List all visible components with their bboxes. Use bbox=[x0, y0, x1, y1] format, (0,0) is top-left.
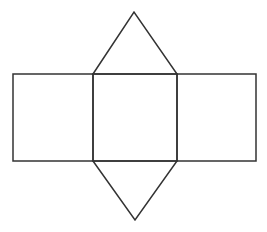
left-rectangle bbox=[13, 74, 93, 161]
prism-net-diagram bbox=[0, 0, 267, 232]
bottom-triangle bbox=[93, 161, 177, 220]
right-rectangle bbox=[177, 74, 256, 161]
top-triangle bbox=[93, 12, 177, 74]
center-rectangle bbox=[93, 74, 177, 161]
